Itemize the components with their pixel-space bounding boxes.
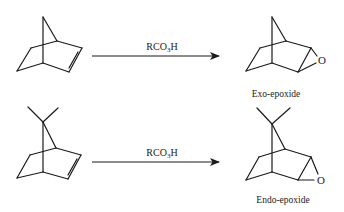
bond-bridgehead-alkene-bottom — [43, 63, 69, 72]
reagent-label: RCO3H — [146, 147, 177, 160]
product-label-exo: Exo-epoxide — [252, 89, 301, 99]
alkene-double-bond-inner — [69, 52, 78, 68]
bridge-bond-right — [272, 124, 285, 149]
bond-bridgehead-alkene-bottom — [43, 172, 68, 179]
bridge-bond-right — [43, 122, 56, 148]
reaction-arrow-2: RCO3H — [92, 147, 219, 162]
reaction-1: RCO3H O Exo-epoxide — [17, 17, 326, 99]
alkene-double-bond-outer — [68, 155, 81, 179]
reaction-scheme: RCO3H O Exo-epoxide — [0, 0, 344, 212]
product-endo-epoxide: O — [246, 108, 325, 186]
methyl-bond-right — [43, 108, 58, 122]
bond-bridgehead-left-upper — [31, 41, 57, 48]
alkene-double-bond-inner — [68, 159, 77, 175]
reaction-arrow-1: RCO3H — [92, 41, 219, 56]
epoxide-cc-bond — [298, 157, 311, 180]
oxygen-atom: O — [318, 54, 326, 66]
epoxide-co-bond-top — [311, 157, 318, 174]
bond-bridgehead-alkene-top — [56, 148, 81, 155]
alkene-double-bond-outer — [69, 48, 82, 72]
bond-bridgehead-epoxide-bottom — [272, 172, 298, 180]
reaction-2: RCO3H O Endo-epoxide — [17, 107, 325, 205]
bond-bridgehead-epoxide-top — [286, 41, 311, 48]
methyl-bond-left — [257, 108, 272, 124]
reactant-norbornene — [17, 17, 82, 72]
bond-bridgehead-epoxide-top — [285, 149, 311, 157]
oxygen-atom: O — [317, 174, 325, 186]
epoxide-co-bond-top — [311, 48, 317, 56]
reagent-label: RCO3H — [146, 41, 177, 54]
methyl-bond-right — [272, 108, 290, 124]
bridge-bond-right — [43, 17, 57, 41]
reactant-dimethylnorbornene — [17, 107, 81, 179]
bond-left-upper-far-left — [17, 155, 30, 178]
bridge-bond-right — [272, 17, 286, 41]
bond-far-left-bridgehead — [17, 172, 43, 178]
product-label-endo: Endo-epoxide — [256, 195, 309, 205]
methyl-bond-left — [28, 107, 43, 122]
bond-bridgehead-epoxide-bottom — [272, 63, 298, 72]
bond-bridgehead-left-upper — [260, 41, 286, 48]
bond-bridgehead-alkene-top — [57, 41, 82, 48]
product-exo-epoxide: O — [246, 17, 326, 72]
